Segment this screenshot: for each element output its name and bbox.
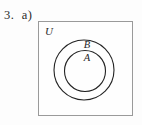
figure-container: 3. a) U B A — [0, 0, 142, 125]
venn-diagram-circles — [39, 22, 132, 115]
problem-number-label: 3. a) — [4, 8, 32, 23]
set-a-label: A — [80, 52, 94, 63]
set-b-label: B — [80, 39, 94, 50]
universal-set-box: U B A — [38, 21, 133, 116]
